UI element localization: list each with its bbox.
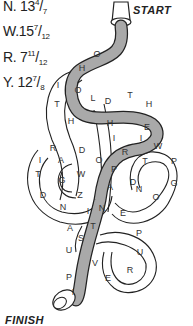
svg-text:N: N <box>136 184 143 194</box>
svg-text:H: H <box>79 63 86 73</box>
svg-text:O: O <box>95 155 102 165</box>
svg-text:R: R <box>122 147 129 157</box>
svg-text:T: T <box>54 99 60 109</box>
svg-text:I: I <box>87 206 90 216</box>
svg-text:N: N <box>99 203 106 213</box>
svg-text:A: A <box>67 223 73 233</box>
svg-text:E: E <box>105 273 111 283</box>
svg-text:Z: Z <box>77 190 83 200</box>
svg-text:D: D <box>105 96 112 106</box>
svg-text:V: V <box>92 258 98 268</box>
svg-text:P: P <box>171 156 177 166</box>
svg-text:O: O <box>152 192 159 202</box>
svg-text:U: U <box>137 247 144 257</box>
svg-text:U: U <box>66 245 73 255</box>
svg-text:D: D <box>130 177 137 187</box>
svg-text:T: T <box>90 221 96 231</box>
svg-text:P: P <box>111 164 117 174</box>
svg-text:E: E <box>120 208 126 218</box>
svg-text:I: I <box>72 287 75 297</box>
svg-text:S: S <box>78 233 84 243</box>
svg-text:T: T <box>35 169 41 179</box>
svg-text:O: O <box>74 85 81 95</box>
svg-text:A: A <box>58 155 64 165</box>
svg-text:T: T <box>142 156 148 166</box>
svg-text:O: O <box>93 49 100 59</box>
svg-text:I: I <box>140 133 143 143</box>
svg-text:W: W <box>154 141 163 151</box>
svg-text:G: G <box>58 175 65 185</box>
svg-text:N: N <box>60 202 67 212</box>
svg-text:I: I <box>39 155 42 165</box>
svg-text:L: L <box>90 93 95 103</box>
svg-text:P: P <box>66 272 72 282</box>
svg-text:W: W <box>77 169 86 179</box>
svg-text:H: H <box>68 116 75 126</box>
svg-text:G: G <box>170 178 177 188</box>
svg-text:E: E <box>144 122 150 132</box>
svg-text:R: R <box>127 265 134 275</box>
svg-text:D: D <box>40 190 47 200</box>
svg-text:I: I <box>113 133 116 143</box>
svg-text:D: D <box>79 145 86 155</box>
svg-text:A: A <box>107 182 113 192</box>
svg-text:P: P <box>136 228 142 238</box>
svg-text:T: T <box>127 90 133 100</box>
svg-text:H: H <box>146 99 153 109</box>
svg-text:I: I <box>57 80 60 90</box>
svg-text:R: R <box>50 143 57 153</box>
svg-text:H: H <box>107 118 114 128</box>
